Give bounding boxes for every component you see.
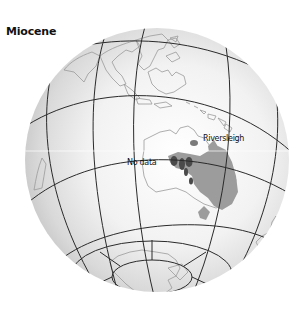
riversleigh-label: Riversleigh [203,134,244,143]
globe-map [0,0,304,314]
no-data-label: No data [127,158,156,167]
riversleigh-site-marker [190,140,198,146]
